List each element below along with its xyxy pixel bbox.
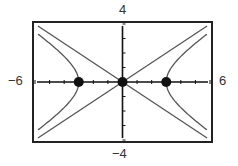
- point-marker: [161, 77, 171, 87]
- point-marker: [118, 77, 128, 87]
- plot-area: [0, 0, 238, 166]
- point-marker: [74, 77, 84, 87]
